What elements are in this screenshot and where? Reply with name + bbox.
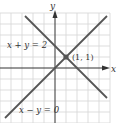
intersection-point [63, 54, 68, 59]
line-x-minus-y-eq-0 [5, 16, 107, 118]
y-axis-label: y [49, 1, 56, 11]
linear-system-graph: y x x + y = 2 x − y = 0 (1, 1) [0, 0, 118, 123]
y-axis-arrow-icon [53, 10, 58, 18]
x-axis-arrow-icon [102, 66, 110, 71]
intersection-label: (1, 1) [72, 53, 94, 62]
line-label-x-minus-y: x − y = 0 [19, 105, 60, 115]
x-axis-label: x [111, 64, 116, 74]
line-label-x-plus-y: x + y = 2 [7, 40, 47, 50]
